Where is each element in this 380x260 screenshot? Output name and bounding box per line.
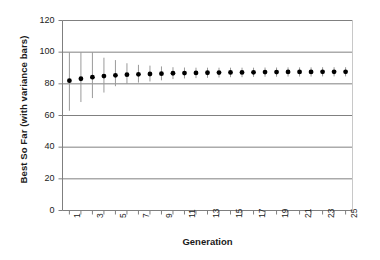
data-point bbox=[171, 71, 176, 76]
x-tick-label: 23 bbox=[327, 208, 336, 217]
y-tick-label: 0 bbox=[29, 206, 55, 215]
y-tick-label: 40 bbox=[29, 142, 55, 151]
data-point bbox=[67, 78, 72, 83]
data-point bbox=[228, 70, 233, 75]
x-tick-label: 3 bbox=[96, 213, 105, 218]
data-point bbox=[182, 71, 187, 76]
x-tick-label: 1 bbox=[73, 213, 82, 218]
data-point bbox=[79, 76, 84, 81]
data-point bbox=[113, 73, 118, 78]
data-point bbox=[274, 70, 279, 75]
plot-area bbox=[0, 0, 380, 260]
data-point bbox=[148, 72, 153, 77]
x-tick-label: 19 bbox=[281, 208, 290, 217]
data-point bbox=[217, 70, 222, 75]
data-point bbox=[286, 70, 291, 75]
y-tick-label: 80 bbox=[29, 79, 55, 88]
data-point bbox=[102, 74, 107, 79]
x-tick-label: 13 bbox=[212, 208, 221, 217]
data-point bbox=[205, 70, 210, 75]
x-tick-label: 5 bbox=[119, 213, 128, 218]
data-point bbox=[320, 69, 325, 74]
x-tick-label: 15 bbox=[235, 208, 244, 217]
x-axis-title: Generation bbox=[62, 236, 353, 247]
x-tick-label: 9 bbox=[165, 213, 174, 218]
y-tick-label: 100 bbox=[29, 47, 55, 56]
data-point bbox=[343, 69, 348, 74]
y-axis-title: Best So Far (with variance bars) bbox=[18, 15, 29, 205]
x-tick-label: 11 bbox=[188, 209, 197, 218]
y-tick-label: 120 bbox=[29, 16, 55, 25]
data-point bbox=[136, 72, 141, 77]
y-tick-label: 20 bbox=[29, 174, 55, 183]
x-tick-label: 7 bbox=[142, 213, 151, 218]
data-point bbox=[240, 70, 245, 75]
chart-figure: Best So Far (with variance bars) Generat… bbox=[0, 0, 380, 260]
x-tick-label: 25 bbox=[350, 208, 359, 217]
data-point bbox=[194, 71, 199, 76]
data-point bbox=[90, 75, 95, 80]
x-tick-label: 17 bbox=[258, 208, 267, 217]
data-point bbox=[332, 69, 337, 74]
data-point bbox=[125, 72, 130, 77]
data-point bbox=[263, 70, 268, 75]
data-point bbox=[309, 70, 314, 75]
x-tick-label: 21 bbox=[304, 208, 313, 217]
data-point bbox=[251, 70, 256, 75]
data-point bbox=[297, 70, 302, 75]
y-tick-label: 60 bbox=[29, 111, 55, 120]
data-point bbox=[159, 71, 164, 76]
